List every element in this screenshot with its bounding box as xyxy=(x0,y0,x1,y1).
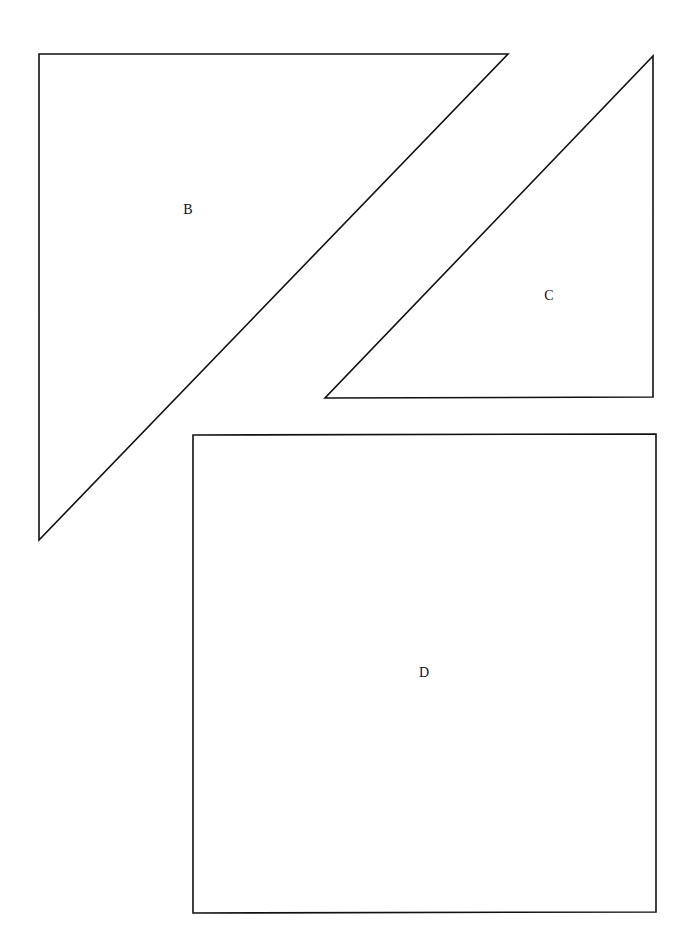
triangle-c xyxy=(325,56,653,398)
label-c: C xyxy=(544,289,553,303)
label-b: B xyxy=(183,203,192,217)
triangle-b xyxy=(39,54,508,540)
label-d: D xyxy=(419,666,429,680)
diagram-canvas xyxy=(0,0,691,950)
